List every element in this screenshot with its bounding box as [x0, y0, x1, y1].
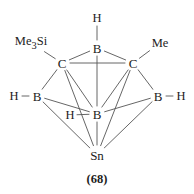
bond-boron-right-tin	[104, 102, 152, 148]
bond-carbon-left-boron-left	[42, 69, 57, 89]
bond-carbon-right-tin	[101, 70, 130, 145]
figure-caption: (68)	[87, 172, 108, 187]
atom-boron-left: B	[32, 90, 43, 103]
substituent-trimethylsilyl: Me3Si	[15, 35, 47, 51]
atom-boron-apex: B	[92, 42, 103, 55]
atom-carbon-right: C	[128, 57, 139, 70]
atom-boron-center: B	[92, 108, 103, 121]
bond-carbon-right-boron-right	[138, 69, 153, 89]
bond-me3si-to-carbon-left	[44, 52, 55, 59]
atom-boron-right: B	[153, 90, 164, 103]
substituent-hydrogen-top: H	[92, 12, 101, 25]
substituent-hydrogen-left: H	[9, 90, 18, 103]
chemical-structure-figure: BCCBBBSnHMe3SiMeHHH (68)	[0, 0, 194, 194]
atom-carbon-left: C	[57, 57, 68, 70]
substituent-hydrogen-bridging: H	[65, 109, 74, 122]
substituent-hydrogen-right: H	[176, 90, 185, 103]
substituent-methyl: Me	[152, 37, 169, 50]
bond-apex-boron-carbon-left	[69, 51, 89, 60]
atom-tin: Sn	[89, 149, 105, 162]
bond-carbon-left-boron-center	[67, 70, 93, 108]
bond-carbon-right-boron-center	[102, 70, 129, 108]
bond-apex-boron-carbon-right	[104, 51, 125, 60]
bond-network	[0, 0, 194, 194]
bond-me-to-carbon-right	[139, 51, 149, 59]
